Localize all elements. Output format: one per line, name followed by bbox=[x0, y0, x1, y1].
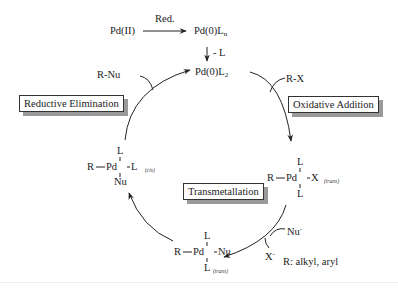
cis-top-ligand: L bbox=[117, 145, 123, 157]
reductive-elimination-arc bbox=[125, 70, 190, 140]
transmetallation-arc bbox=[224, 205, 286, 257]
oa-bottom-ligand: L bbox=[297, 188, 303, 200]
transmetallation-box: Transmetallation bbox=[183, 183, 264, 200]
r-group-legend: R: alkyl, aryl bbox=[283, 256, 338, 268]
reductive-elimination-box: Reductive Elimination bbox=[19, 95, 124, 112]
reduction-label: Red. bbox=[155, 13, 175, 25]
bottom-divider bbox=[0, 282, 398, 283]
cis-metal: Pd bbox=[106, 161, 117, 173]
tm-left-group: R bbox=[174, 246, 181, 258]
x-anion-label: X- bbox=[265, 248, 275, 263]
oxidative-addition-arc bbox=[250, 72, 291, 141]
oa-right-group: X bbox=[311, 172, 319, 184]
rnu-exit-arc bbox=[140, 76, 153, 90]
nu-anion-label: Nu- bbox=[287, 223, 302, 238]
cis-bottom-group: Nu bbox=[114, 176, 127, 188]
oa-metal: Pd bbox=[286, 172, 297, 184]
tm-right-group: Nu bbox=[218, 246, 231, 258]
oa-geometry-note: (trans) bbox=[324, 175, 339, 187]
oa-left-group: R bbox=[267, 172, 274, 184]
rx-reagent-label: R-X bbox=[286, 73, 304, 85]
rx-entry-arc bbox=[270, 78, 285, 92]
pd0-l2-label: Pd(0)L2 bbox=[195, 66, 228, 81]
tm-bottom-ligand: L bbox=[204, 262, 210, 274]
cis-left-group: R bbox=[87, 161, 94, 173]
tm-geometry-note: (trans) bbox=[213, 265, 228, 277]
oxidative-addition-box: Oxidative Addition bbox=[288, 96, 379, 113]
cis-geometry-note: (cis) bbox=[145, 164, 155, 176]
pd-ii-label: Pd(II) bbox=[110, 25, 135, 37]
cis-right-ligand: L bbox=[131, 161, 137, 173]
isomerization-arc bbox=[129, 193, 173, 241]
rnu-product-label: R-Nu bbox=[97, 69, 120, 81]
ligand-loss-label: - L bbox=[213, 47, 226, 59]
tm-metal: Pd bbox=[193, 246, 204, 258]
tm-top-ligand: L bbox=[204, 230, 210, 242]
oa-top-ligand: L bbox=[297, 156, 303, 168]
pd0-ln-label: Pd(0)Ln bbox=[194, 25, 227, 40]
x-exit-arc bbox=[265, 238, 269, 248]
catalytic-cycle-diagram: Pd(II) Red. Pd(0)Ln - L Pd(0)L2 R-Nu R-X… bbox=[0, 0, 398, 292]
